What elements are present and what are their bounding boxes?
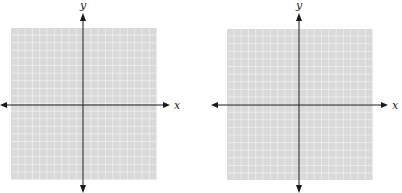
x-axis-left-arrow-icon [0,102,7,108]
coordinate-plane-left: x y [0,0,200,193]
x-axis-right-arrow-icon [163,102,170,108]
coordinate-plane-right-svg: x y [200,0,402,193]
coordinate-plane-left-svg: x y [0,0,200,193]
coordinate-plane-right: x y [200,0,402,193]
y-axis-up-arrow-icon [296,13,302,21]
x-axis-right-arrow-icon [381,102,388,108]
y-axis-down-arrow-icon [296,185,302,193]
y-axis-label: y [79,0,87,12]
x-axis-left-arrow-icon [211,102,218,108]
y-axis-label: y [295,0,303,12]
y-axis-down-arrow-icon [80,185,86,193]
y-axis-up-arrow-icon [80,13,86,21]
x-axis-label: x [174,99,181,112]
x-axis-label: x [392,99,399,112]
grid [11,28,157,180]
